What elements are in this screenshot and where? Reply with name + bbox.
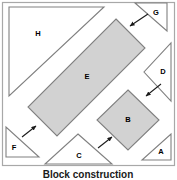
shape-label-B: B xyxy=(125,115,131,124)
arrow-to-b-right-icon xyxy=(146,84,161,96)
diagram-canvas: H G D E B F C A xyxy=(0,0,177,180)
shape-G xyxy=(135,3,167,31)
shape-label-A: A xyxy=(158,147,164,156)
shape-A xyxy=(142,134,171,160)
arrow-to-e-lower-left-icon xyxy=(22,126,36,137)
shape-group-A: A xyxy=(142,134,171,160)
shape-group-G: G xyxy=(135,3,167,31)
shape-D xyxy=(144,43,171,101)
shape-label-G: G xyxy=(153,8,159,17)
shape-label-E: E xyxy=(84,72,89,81)
shape-label-D: D xyxy=(160,67,166,76)
block-construction-figure: H G D E B F C A xyxy=(0,0,177,180)
figure-caption: Block construction xyxy=(43,169,134,180)
shape-label-C: C xyxy=(76,151,82,160)
shape-group-D: D xyxy=(144,43,171,101)
shape-label-H: H xyxy=(35,29,40,38)
arrow-to-e-top-right-icon xyxy=(130,14,148,26)
shape-label-F: F xyxy=(12,143,17,152)
shape-group-C: C xyxy=(45,134,112,164)
arrow-to-b-lower-left-icon xyxy=(98,137,112,148)
shape-group-F: F xyxy=(6,127,39,157)
